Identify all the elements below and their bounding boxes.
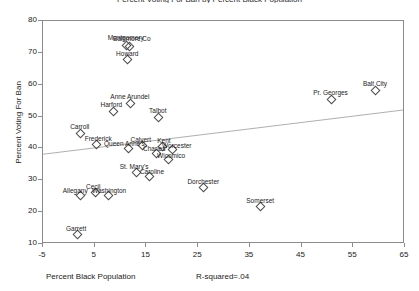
x-tick-mark <box>352 243 353 247</box>
data-point-label: Talbot <box>149 107 166 114</box>
x-tick-label: 65 <box>391 251 417 259</box>
y-tick-mark <box>38 20 42 21</box>
y-tick-label: 30 <box>11 175 37 183</box>
data-point-label: Howard <box>116 50 138 57</box>
data-point-label: Somerset <box>246 197 274 204</box>
data-point-label: Carroll <box>70 123 89 130</box>
chart-title: Percent Voting For Ban by Percent Black … <box>0 0 419 3</box>
y-tick-mark <box>38 211 42 212</box>
x-tick-mark <box>197 243 198 247</box>
y-tick-label: 80 <box>11 16 37 24</box>
x-tick-mark <box>404 243 405 247</box>
x-tick-mark <box>145 243 146 247</box>
y-tick-mark <box>38 179 42 180</box>
scatter-chart: Percent Voting For Ban by Percent Black … <box>0 0 419 291</box>
y-tick-label: 70 <box>11 48 37 56</box>
regression-line <box>43 21 403 242</box>
x-axis-title: Percent Black Population <box>46 272 135 281</box>
data-point-label: Dorchester <box>187 178 219 185</box>
data-point-label: Allegany <box>63 187 88 194</box>
x-tick-mark <box>42 243 43 247</box>
data-point-label: Balt City <box>363 80 387 87</box>
y-tick-mark <box>38 116 42 117</box>
x-tick-label: 25 <box>184 251 210 259</box>
x-tick-mark <box>249 243 250 247</box>
r-squared-annotation: R-squared=.04 <box>196 272 249 281</box>
y-axis-title: Percent Voting For Ban <box>14 53 23 193</box>
data-point-label: Anne Arundel <box>110 93 149 100</box>
data-point-label: Pr. Georges <box>313 89 348 96</box>
y-tick-label: 40 <box>11 143 37 151</box>
data-point-label: Charles <box>143 145 165 152</box>
x-tick-label: -5 <box>29 251 55 259</box>
data-point-label: Harford <box>100 101 122 108</box>
x-tick-label: 55 <box>339 251 365 259</box>
plot-area: MontgomeryBaltimore CoHowardBalt CityPr.… <box>42 20 404 243</box>
x-tick-label: 45 <box>288 251 314 259</box>
x-tick-label: 15 <box>132 251 158 259</box>
data-point-label: Washington <box>92 187 126 194</box>
y-tick-mark <box>38 84 42 85</box>
y-tick-label: 60 <box>11 80 37 88</box>
y-tick-label: 10 <box>11 239 37 247</box>
y-tick-label: 50 <box>11 112 37 120</box>
data-point-label: Queen Anne's <box>104 140 145 147</box>
y-tick-label: 20 <box>11 207 37 215</box>
plot-clip: MontgomeryBaltimore CoHowardBalt CityPr.… <box>43 21 403 242</box>
x-tick-mark <box>94 243 95 247</box>
data-point-label: Baltimore Co <box>113 35 151 42</box>
x-tick-label: 5 <box>81 251 107 259</box>
data-point-label: Caroline <box>140 168 164 175</box>
y-tick-mark <box>38 52 42 53</box>
data-point-label: Wicomico <box>157 152 185 159</box>
x-tick-mark <box>301 243 302 247</box>
x-tick-label: 35 <box>236 251 262 259</box>
data-point-label: Garrett <box>66 225 86 232</box>
y-tick-mark <box>38 147 42 148</box>
data-point-label: Worcester <box>162 142 192 149</box>
